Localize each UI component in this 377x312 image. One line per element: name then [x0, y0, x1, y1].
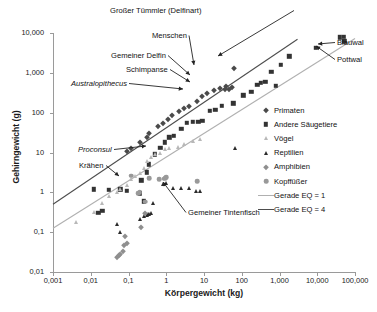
data-point	[207, 109, 211, 113]
legend-marker	[258, 188, 274, 202]
x-tick-mark	[204, 272, 205, 276]
y-tick-text: 1	[0, 188, 44, 195]
data-point	[176, 145, 180, 149]
legend-marker-swatch	[264, 108, 269, 113]
y-tick-label: 1	[0, 188, 47, 195]
data-point	[167, 146, 171, 150]
data-point	[190, 120, 194, 124]
legend-marker-swatch	[264, 151, 268, 155]
data-point	[263, 79, 267, 83]
annotation-label: Gemeiner Delfin	[111, 51, 166, 60]
legend-item-4[interactable]: Reptilien	[258, 146, 376, 160]
legend-marker	[258, 103, 274, 117]
legend-item-7[interactable]: Gerade EQ = 1	[258, 188, 376, 202]
data-point	[100, 201, 104, 205]
data-point	[153, 152, 157, 156]
legend-label: Kopffüßer	[274, 177, 307, 186]
data-point	[182, 142, 186, 146]
annotation-label: Pottwal	[337, 55, 362, 64]
legend-marker-swatch	[264, 164, 269, 169]
chart-container: Gehirngewicht (g) Körpergewicht (kg) Pri…	[0, 0, 377, 312]
x-tick-mark	[166, 272, 167, 276]
data-point	[100, 209, 104, 213]
legend-label: Primaten	[274, 106, 304, 115]
y-tick-mark	[50, 192, 54, 193]
legend-label: Gerade EQ = 4	[274, 205, 325, 214]
data-point	[313, 46, 317, 50]
data-point	[194, 189, 198, 193]
data-point	[274, 83, 278, 87]
x-tick-mark	[91, 272, 92, 276]
y-tick-label: 100	[0, 109, 47, 116]
data-point	[125, 188, 129, 192]
data-point	[143, 199, 148, 204]
legend-item-2[interactable]: Andere Säugetiere	[258, 117, 376, 131]
data-point	[139, 178, 143, 182]
legend-item-5[interactable]: Amphibien	[258, 160, 376, 174]
legend-item-6[interactable]: Kopffüßer	[258, 174, 376, 188]
legend-line-swatch	[258, 209, 274, 210]
legend-item-3[interactable]: Vögel	[258, 131, 376, 145]
legend-item-1[interactable]: Primaten	[258, 103, 376, 117]
legend-marker	[258, 117, 274, 131]
legend-marker-swatch	[264, 179, 269, 184]
data-point	[92, 210, 96, 214]
data-point	[107, 188, 111, 192]
legend-label: Andere Säugetiere	[274, 120, 337, 129]
data-point	[118, 230, 122, 234]
y-tick-text: 0,01	[0, 268, 44, 275]
legend-marker	[258, 146, 274, 160]
annotation-label: Gemeiner Tintenfisch	[188, 208, 260, 217]
y-tick-label: 0,1	[0, 228, 47, 235]
data-point	[138, 217, 142, 221]
legend-item-8[interactable]: Gerade EQ = 4	[258, 202, 376, 216]
x-tick-mark	[280, 272, 281, 276]
legend-marker	[258, 131, 274, 145]
x-axis-title: Körpergewicht (kg)	[53, 288, 355, 298]
data-point	[198, 137, 202, 141]
data-point	[138, 171, 142, 175]
data-point	[107, 194, 111, 198]
data-point	[164, 181, 168, 185]
data-point	[129, 174, 134, 179]
x-tick-label: 100,000	[333, 276, 377, 285]
data-point	[287, 54, 291, 58]
data-point	[231, 101, 235, 105]
annotation-label: Menschen	[152, 31, 187, 40]
data-point	[172, 134, 176, 138]
y-tick-text: 10	[0, 149, 44, 156]
legend-marker	[258, 202, 274, 216]
data-point	[138, 190, 143, 195]
data-point	[179, 186, 183, 190]
legend-marker	[258, 160, 274, 174]
legend-line-swatch	[258, 195, 274, 196]
x-tick-mark	[129, 272, 130, 276]
data-point	[115, 222, 119, 226]
data-point	[200, 119, 204, 123]
legend-label: Vögel	[274, 134, 293, 143]
data-point	[163, 147, 167, 151]
annotation-label: Schimpanse	[126, 65, 168, 74]
data-point	[185, 121, 189, 125]
data-point	[249, 90, 253, 94]
annotation-label: Krähen	[79, 161, 104, 170]
y-tick-mark	[50, 232, 54, 233]
data-point	[142, 166, 146, 170]
y-tick-text: 0,1	[0, 228, 44, 235]
chart-legend: PrimatenAndere SäugetiereVögelReptilienA…	[258, 103, 376, 217]
data-point	[92, 187, 96, 191]
data-point	[125, 183, 129, 187]
data-point	[151, 201, 155, 205]
annotation-label: Australopithecus	[71, 79, 127, 88]
annotation-label: Blauwal	[337, 38, 364, 47]
y-tick-mark	[50, 153, 54, 154]
data-point	[179, 126, 183, 130]
data-point	[162, 140, 166, 144]
data-point	[149, 211, 153, 215]
y-tick-text: 1,000	[0, 69, 44, 76]
y-tick-mark	[50, 33, 54, 34]
legend-marker-swatch	[264, 136, 268, 140]
data-point	[187, 186, 191, 190]
data-point	[164, 175, 169, 180]
y-tick-mark	[50, 73, 54, 74]
